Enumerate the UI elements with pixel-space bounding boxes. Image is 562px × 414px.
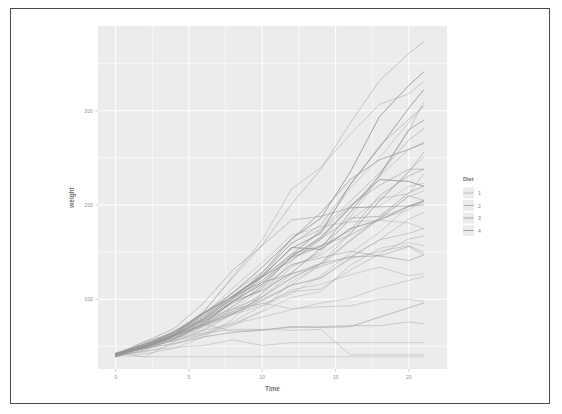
plot-panel (98, 26, 447, 369)
y-tick-label: 200 (84, 202, 93, 208)
legend-item-label[interactable]: 4 (478, 228, 481, 234)
x-axis-title: Time (265, 385, 280, 392)
figure-frame: 05101520 100200300 Timeweight Diet1234 (10, 8, 550, 404)
legend-item-label[interactable]: 1 (478, 190, 481, 196)
x-tick-label: 10 (259, 374, 265, 380)
x-tick-label: 20 (406, 374, 412, 380)
panel-background (98, 26, 447, 369)
x-tick-label: 15 (333, 374, 339, 380)
y-axis-title: weight (68, 187, 76, 209)
y-tick-label: 300 (84, 108, 93, 114)
legend-title: Diet (463, 176, 474, 182)
legend[interactable]: Diet1234 (463, 176, 481, 236)
x-axis: 05101520 (114, 369, 412, 380)
chart-canvas: 05101520 100200300 Timeweight Diet1234 (11, 9, 551, 405)
y-axis: 100200300 (84, 108, 98, 302)
y-tick-label: 100 (84, 296, 93, 302)
x-tick-label: 0 (114, 374, 117, 380)
legend-item-label[interactable]: 2 (478, 203, 481, 209)
legend-item-label[interactable]: 3 (478, 215, 481, 221)
x-tick-label: 5 (187, 374, 190, 380)
